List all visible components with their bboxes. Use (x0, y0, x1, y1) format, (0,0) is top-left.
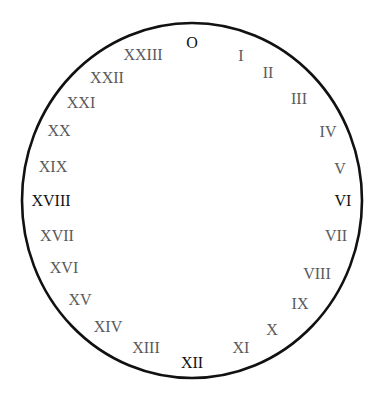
hour-label: IV (320, 124, 337, 140)
hour-label: VI (335, 193, 352, 209)
hour-label: XXII (90, 70, 124, 86)
hour-label: VII (325, 228, 347, 244)
hour-label: VIII (303, 266, 331, 282)
hour-label: XVI (50, 260, 78, 276)
hour-label: XIII (132, 340, 160, 356)
hour-label: I (238, 48, 243, 64)
hour-label: XXI (67, 95, 95, 111)
hour-label: XVII (40, 228, 74, 244)
hour-label: IX (292, 296, 309, 312)
hour-label: XV (68, 292, 91, 308)
hour-label: II (263, 65, 274, 81)
hour-label: XII (181, 355, 203, 371)
hour-label: XIX (39, 159, 67, 175)
hour-label: XX (47, 123, 70, 139)
hour-label: XXIII (123, 47, 162, 63)
hour-label: III (291, 91, 307, 107)
hour-label: X (266, 322, 278, 338)
hour-label: O (186, 35, 198, 51)
hour-label: XI (233, 340, 250, 356)
hour-label: XIV (94, 319, 122, 335)
hour-label: XVIII (31, 193, 70, 209)
hour-label: V (334, 161, 346, 177)
